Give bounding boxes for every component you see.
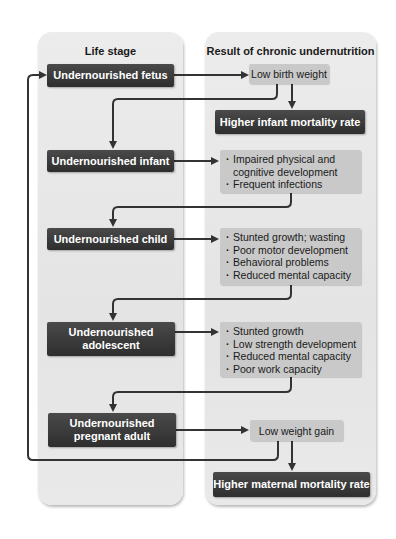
result-item: Impaired physical and cognitive developm… — [226, 153, 357, 178]
stage-pregnant-adult: Undernourished pregnant adult — [48, 413, 176, 447]
result-item: Low strength development — [226, 338, 357, 351]
stage-adolescent: Undernourished adolescent — [47, 322, 175, 356]
stage-fetus: Undernourished fetus — [47, 64, 174, 87]
stage-adolescent-label: Undernourished adolescent — [69, 326, 154, 352]
result-child: Stunted growth; wasting Poor motor devel… — [220, 228, 361, 285]
result-infant: Impaired physical and cognitive developm… — [220, 150, 361, 193]
result-item: Poor motor development — [226, 244, 357, 257]
result-infant-list: Impaired physical and cognitive developm… — [220, 150, 361, 194]
result-item: Stunted growth — [226, 325, 357, 338]
result-child-list: Stunted growth; wasting Poor motor devel… — [220, 228, 361, 284]
result-item: Stunted growth; wasting — [226, 231, 357, 244]
result-adolescent: Stunted growth Low strength development … — [220, 322, 361, 377]
result-higher-infant-mortality: Higher infant mortality rate — [215, 110, 365, 134]
result-item: Behavioral problems — [226, 256, 357, 269]
result-item: Frequent infections — [226, 178, 357, 191]
result-higher-maternal-mortality: Higher maternal mortality rate — [213, 472, 370, 497]
result-item: Poor work capacity — [226, 363, 357, 376]
stage-child: Undernourished child — [47, 228, 174, 250]
result-item: Reduced mental capacity — [226, 269, 357, 282]
result-item: Reduced mental capacity — [226, 350, 357, 363]
result-low-birth-weight: Low birth weight — [249, 64, 329, 84]
result-adolescent-list: Stunted growth Low strength development … — [220, 322, 361, 378]
result-low-weight-gain: Low weight gain — [250, 420, 343, 441]
stage-infant: Undernourished infant — [47, 150, 174, 172]
stage-pregnant-adult-label: Undernourished pregnant adult — [70, 417, 155, 443]
